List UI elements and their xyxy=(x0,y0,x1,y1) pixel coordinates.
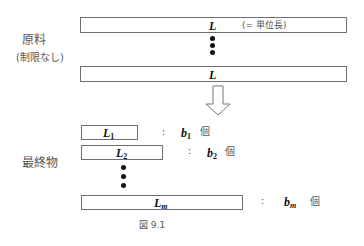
raw-bar-top-length: L xyxy=(209,20,216,32)
colon-m: : xyxy=(261,197,264,206)
unit-ko-1: 個 xyxy=(200,127,210,137)
down-arrow-icon xyxy=(203,85,233,117)
final-products-label: 最終物 xyxy=(22,153,58,170)
product-length-m: Lm xyxy=(154,197,168,211)
product-count-1: b1 xyxy=(181,127,191,141)
product-count-2: b2 xyxy=(207,147,217,161)
ellipsis-dot-icon xyxy=(121,165,126,170)
ellipsis-dot-icon xyxy=(121,174,126,179)
ellipsis-dot-icon xyxy=(210,36,215,41)
ellipsis-dot-icon xyxy=(121,183,126,188)
product-length-1: L1 xyxy=(103,127,114,141)
ellipsis-dot-icon xyxy=(210,43,215,48)
unit-length-note: (= 単位長) xyxy=(242,21,286,30)
raw-bar-bottom-length: L xyxy=(209,69,216,81)
product-count-m: bm xyxy=(284,196,296,210)
unit-ko-m: 個 xyxy=(310,197,320,207)
ellipsis-dot-icon xyxy=(210,50,215,55)
colon-2: : xyxy=(188,147,191,156)
product-count-1-sub: 1 xyxy=(187,132,191,141)
raw-material-label: 原料 xyxy=(22,30,46,47)
product-count-2-sub: 2 xyxy=(213,152,217,161)
figure-caption: 図 9.1 xyxy=(139,221,165,230)
product-length-1-sub: 1 xyxy=(110,132,114,141)
product-length-2-sub: 2 xyxy=(123,152,127,161)
product-length-2: L2 xyxy=(116,147,127,161)
unit-ko-2: 個 xyxy=(225,147,235,157)
raw-material-sublabel: (制限なし) xyxy=(16,49,64,64)
colon-1: : xyxy=(162,128,165,137)
product-length-m-sub: m xyxy=(161,202,167,211)
product-count-m-sub: m xyxy=(290,201,296,210)
